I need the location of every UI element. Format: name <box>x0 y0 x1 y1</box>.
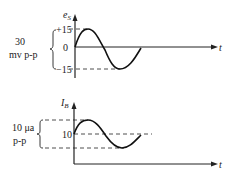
bottom-amplitude-unit: p-p <box>13 135 26 146</box>
bottom-y-arrow-icon <box>72 102 77 109</box>
bottom-amplitude-value: 10 μa <box>12 122 35 133</box>
top-tick-minus15: −15 <box>56 64 72 75</box>
bottom-graph: IB 10 10 μa p-p t <box>12 97 222 170</box>
top-x-arrow-icon <box>211 45 218 50</box>
top-tick-plus15: +15 <box>56 24 72 35</box>
top-graph: eS +15 0 −15 30 mv p-p t <box>9 9 222 78</box>
bottom-x-label: t <box>219 159 222 170</box>
top-tick-zero: 0 <box>63 42 68 53</box>
bottom-brace <box>37 120 43 148</box>
top-y-arrow-icon <box>73 14 78 21</box>
bottom-y-label: IB <box>60 97 69 110</box>
top-amplitude-unit: mv p-p <box>9 49 38 60</box>
bottom-x-arrow-icon <box>211 162 218 167</box>
top-sine-wave <box>75 29 141 69</box>
bottom-tick-10: 10 <box>62 129 72 140</box>
top-x-label: t <box>219 42 222 53</box>
top-amplitude-value: 30 <box>15 36 25 47</box>
waveform-diagram: eS +15 0 −15 30 mv p-p t IB 10 10 μa p-p… <box>0 0 237 179</box>
top-y-label: eS <box>63 9 71 22</box>
